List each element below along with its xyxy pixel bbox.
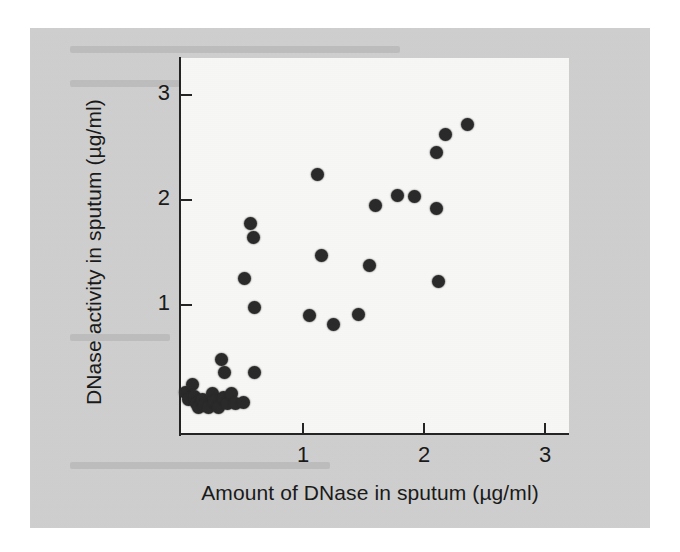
ghost-text-line: [70, 46, 400, 53]
x-tick-mark: [302, 423, 304, 434]
data-point: [218, 366, 231, 379]
y-axis-line: [179, 57, 181, 436]
data-point: [461, 118, 474, 131]
data-point: [315, 249, 328, 262]
plot-area: [181, 58, 569, 434]
y-tick-mark: [181, 94, 192, 96]
data-point: [303, 309, 316, 322]
data-point: [248, 366, 261, 379]
y-tick-label: 3: [140, 82, 170, 104]
data-point: [369, 199, 382, 212]
data-point: [248, 301, 261, 314]
x-tick-mark: [423, 423, 425, 434]
x-tick-label: 2: [409, 444, 439, 466]
x-axis-title: Amount of DNase in sputum (µg/ml): [120, 481, 620, 505]
y-axis-title: DNase activity in sputum (µg/ml): [82, 92, 106, 412]
y-tick-mark: [181, 304, 192, 306]
y-tick-mark: [181, 199, 192, 201]
x-axis-line: [179, 433, 569, 435]
figure-scatter-plot: 123 123 Amount of DNase in sputum (µg/ml…: [0, 0, 680, 552]
x-tick-mark: [544, 423, 546, 434]
x-tick-label: 1: [288, 444, 318, 466]
data-point: [363, 259, 376, 272]
x-tick-label: 3: [530, 444, 560, 466]
data-point: [430, 202, 443, 215]
data-point: [352, 308, 365, 321]
y-tick-label: 2: [140, 187, 170, 209]
y-tick-label: 1: [140, 292, 170, 314]
data-point: [430, 146, 443, 159]
